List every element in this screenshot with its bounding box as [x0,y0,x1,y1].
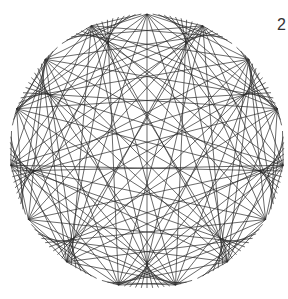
chord-lines [10,14,284,288]
string-art-figure [0,0,288,299]
figure-number: 2 [277,16,286,34]
